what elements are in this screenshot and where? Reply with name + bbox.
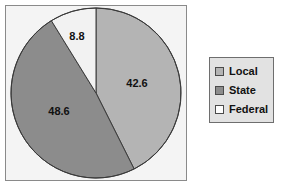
legend-label-federal: Federal <box>229 104 268 115</box>
pie-chart: 42.6 48.6 8.8 Local State Federal <box>0 0 281 186</box>
legend-label-state: State <box>229 85 256 96</box>
legend-item-state[interactable]: State <box>215 81 269 100</box>
legend-item-federal[interactable]: Federal <box>215 100 269 119</box>
legend: Local State Federal <box>209 57 274 123</box>
legend-swatch-local-icon <box>215 67 224 76</box>
legend-swatch-state-icon <box>215 86 224 95</box>
legend-label-local: Local <box>229 66 258 77</box>
slice-label-federal: 8.8 <box>69 30 84 42</box>
slice-label-local: 42.6 <box>126 77 147 89</box>
legend-swatch-federal-icon <box>215 105 224 114</box>
pie-graphic: 42.6 48.6 8.8 <box>5 5 187 181</box>
legend-item-local[interactable]: Local <box>215 62 269 81</box>
slice-label-state: 48.6 <box>48 105 69 117</box>
